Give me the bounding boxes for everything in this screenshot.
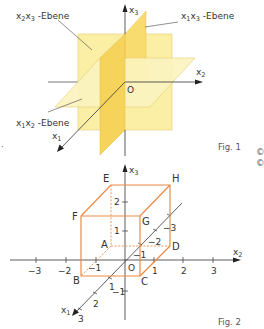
- vertex-label-a: A: [101, 239, 108, 250]
- fig1-x2-arrow-icon: [195, 80, 203, 85]
- x1x3-leader-line: [145, 22, 178, 27]
- x2x3-plane-label: x2x3 -Ebene: [16, 11, 70, 23]
- x1-tick-label: 1: [109, 282, 115, 292]
- x1-tick-label: 3: [78, 314, 84, 324]
- x2-tick-label: 2: [181, 266, 187, 276]
- x1-tick-label: −2: [148, 237, 161, 247]
- vertex-label-d: D: [172, 241, 180, 252]
- fig1-x3-arrow-icon: [123, 4, 128, 12]
- x1x2-plane-label: x1x2 -Ebene: [16, 118, 70, 130]
- x1x3-plane-label: x1x3 -Ebene: [181, 11, 235, 23]
- x2-tick-label: −2: [58, 266, 71, 276]
- fig2-x1-axis: [76, 203, 182, 312]
- fig2-x2-label: x2: [233, 247, 242, 259]
- x1-tick-label: −1: [133, 250, 146, 260]
- fig1-x1-label: x1: [52, 131, 61, 143]
- x2-tick-label: 3: [211, 266, 217, 276]
- x2-tick-label: −3: [28, 266, 41, 276]
- fig2-x3-arrow-icon: [123, 164, 128, 172]
- margin-mark: ©: [256, 147, 264, 157]
- fig1-origin-label: O: [127, 85, 134, 95]
- vertex-label-h: H: [172, 173, 180, 184]
- margin-mark-2: ©: [256, 158, 264, 168]
- fig2-caption: Fig. 2: [218, 317, 241, 327]
- vertex-label-g: G: [142, 216, 150, 227]
- margin-dot: ·: [1, 142, 4, 152]
- fig2-x3-label: x3: [129, 165, 138, 177]
- fig2-origin-label: O: [128, 263, 135, 273]
- x2-tick-label: −1: [88, 263, 101, 273]
- x3-tick-label: 1: [114, 226, 120, 236]
- vertex-label-f: F: [72, 211, 78, 222]
- vertex-label-e: E: [103, 173, 109, 184]
- figure-canvas: x2x3 -Ebene x1x3 -Ebene x1x2 -Ebene x3 x…: [0, 0, 264, 329]
- vertex-label-b: B: [73, 275, 80, 286]
- x3-tick-label: 2: [114, 197, 120, 207]
- fig2-x1-label: x1: [61, 305, 70, 317]
- fig1-x3-label: x3: [129, 5, 138, 17]
- x1-tick-label: −3: [163, 223, 176, 233]
- vertex-label-c: C: [141, 276, 148, 287]
- x2-tick-label: 1: [152, 266, 158, 276]
- fig1-coordinate-planes: [48, 4, 203, 156]
- fig1-x2-label: x2: [196, 67, 205, 79]
- fig1-caption: Fig. 1: [218, 142, 241, 152]
- fig2-cube-diagram: [10, 164, 241, 320]
- x1-tick-label: 2: [93, 299, 99, 309]
